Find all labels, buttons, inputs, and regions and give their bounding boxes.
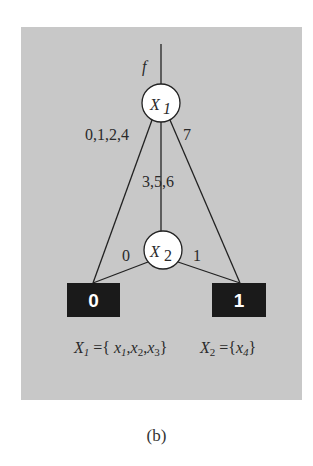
legend-x1-definition: X1 ={ x1,x2,x3} [73, 339, 168, 358]
svg-text:1: 1 [234, 290, 245, 311]
edge-label-x1-x2: 3,5,6 [142, 173, 174, 190]
terminal-1: 1 [212, 283, 266, 317]
svg-text:X2 ={x4}: X2 ={x4} [199, 339, 256, 358]
svg-text:X: X [149, 96, 161, 113]
decision-diagram: f 0,1,2,4 3,5,6 7 0 1 X 1 X 2 0 1 X1 ={ … [0, 0, 313, 466]
node-x1: X 1 [142, 84, 180, 122]
svg-text:X: X [149, 243, 161, 260]
edge-label-x1-t1: 7 [183, 126, 191, 143]
svg-text:2: 2 [164, 247, 172, 264]
edge-label-x2-t0: 0 [122, 247, 130, 264]
svg-text:0: 0 [88, 290, 99, 311]
node-x2: X 2 [144, 231, 182, 269]
figure-caption: (b) [0, 426, 313, 446]
svg-text:1: 1 [163, 100, 171, 117]
terminal-0: 0 [67, 283, 120, 317]
edge-label-x1-t0: 0,1,2,4 [85, 126, 129, 143]
edge-x2-t0 [93, 262, 148, 283]
edge-label-x2-t1: 1 [193, 247, 201, 264]
svg-text:X1 ={ x1,x2,x3}: X1 ={ x1,x2,x3} [73, 339, 168, 358]
edge-x2-t1 [178, 262, 240, 283]
legend-x2-definition: X2 ={x4} [199, 339, 256, 358]
root-label: f [142, 58, 149, 76]
